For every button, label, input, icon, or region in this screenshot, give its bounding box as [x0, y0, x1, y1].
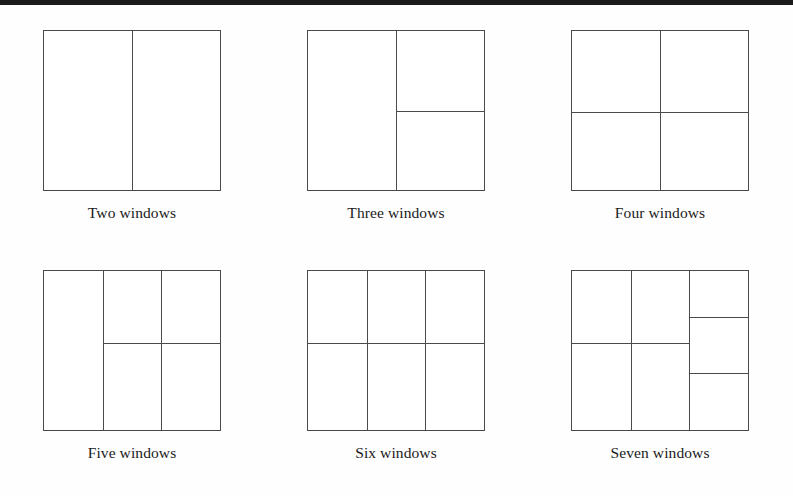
window-layout-figure-grid: Two windowsThree windowsFour windowsFive… [0, 5, 793, 485]
figure-five-windows: Five windows [0, 245, 264, 485]
horizontal-divider-segment [689, 317, 748, 318]
figure-two-windows: Two windows [0, 5, 264, 245]
figure-three-windows: Three windows [264, 5, 528, 245]
window-layout-diagram-five-windows [43, 270, 221, 431]
figure-four-windows: Four windows [528, 5, 792, 245]
vertical-divider [689, 271, 690, 430]
horizontal-divider-segment [689, 373, 748, 374]
figure-caption: Four windows [615, 204, 705, 222]
horizontal-divider [308, 343, 484, 344]
vertical-divider [132, 31, 133, 190]
figure-caption: Two windows [88, 204, 176, 222]
window-layout-diagram-six-windows [307, 270, 485, 431]
window-layout-diagram-seven-windows [571, 270, 749, 431]
vertical-divider [161, 271, 162, 430]
vertical-divider [103, 271, 104, 430]
vertical-divider [631, 271, 632, 430]
horizontal-divider-segment [396, 111, 484, 112]
document-page: Two windowsThree windowsFour windowsFive… [0, 5, 793, 496]
figure-caption: Five windows [88, 444, 177, 462]
window-layout-diagram-four-windows [571, 30, 749, 191]
figure-caption: Seven windows [610, 444, 709, 462]
window-layout-diagram-three-windows [307, 30, 485, 191]
figure-caption: Three windows [347, 204, 444, 222]
window-layout-diagram-two-windows [43, 30, 221, 191]
vertical-divider [425, 271, 426, 430]
figure-seven-windows: Seven windows [528, 245, 792, 485]
figure-six-windows: Six windows [264, 245, 528, 485]
vertical-divider [660, 31, 661, 190]
vertical-divider [367, 271, 368, 430]
horizontal-divider [572, 112, 748, 113]
horizontal-divider-segment [572, 343, 689, 344]
horizontal-divider-segment [103, 343, 220, 344]
figure-caption: Six windows [355, 444, 437, 462]
